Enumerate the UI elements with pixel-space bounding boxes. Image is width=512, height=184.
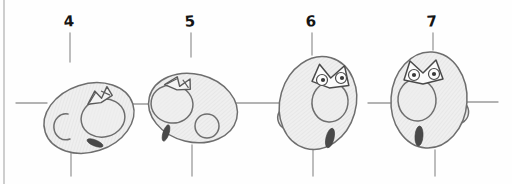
frame-label-4: 4 xyxy=(63,14,74,30)
pupil-right-6 xyxy=(340,76,344,80)
pupil-right-7 xyxy=(432,72,436,76)
frame-label-7: 7 xyxy=(426,14,437,30)
sketch-sheet: 4 5 6 7 xyxy=(0,0,512,184)
pupil-left-7 xyxy=(412,73,416,77)
frame-label-5: 5 xyxy=(184,14,195,30)
frame-label-6: 6 xyxy=(305,14,316,30)
pupil-left-6 xyxy=(321,78,325,82)
